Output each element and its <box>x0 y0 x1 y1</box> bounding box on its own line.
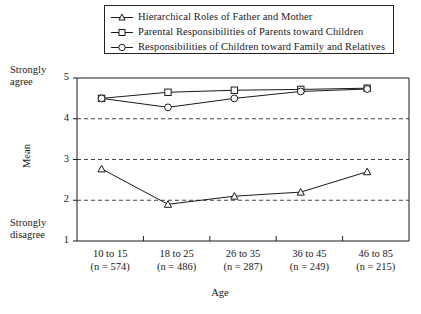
data-point-marker <box>98 95 105 102</box>
y-tick-label-3: 3 <box>49 153 69 164</box>
category-name: 46 to 85 <box>336 248 416 261</box>
data-point-marker <box>297 88 304 95</box>
figure-container: Hierarchical Roles of Father and Mother … <box>0 0 421 314</box>
y-tick-label-2: 2 <box>49 193 69 204</box>
y-tick-label-4: 4 <box>49 112 69 123</box>
x-category-label-4: 46 to 85(n = 215) <box>336 248 416 273</box>
data-series-layer <box>98 85 371 207</box>
data-point-marker <box>231 95 238 102</box>
y-tick-label-5: 5 <box>49 71 69 82</box>
data-point-marker <box>98 165 105 172</box>
data-point-marker <box>231 87 237 93</box>
data-point-marker <box>364 86 371 93</box>
y-tick-label-1: 1 <box>49 234 69 245</box>
data-point-marker <box>364 168 371 175</box>
data-point-marker <box>165 104 172 111</box>
data-point-marker <box>165 89 171 95</box>
category-sample-size: (n = 215) <box>336 261 416 274</box>
gridlines <box>77 119 409 201</box>
